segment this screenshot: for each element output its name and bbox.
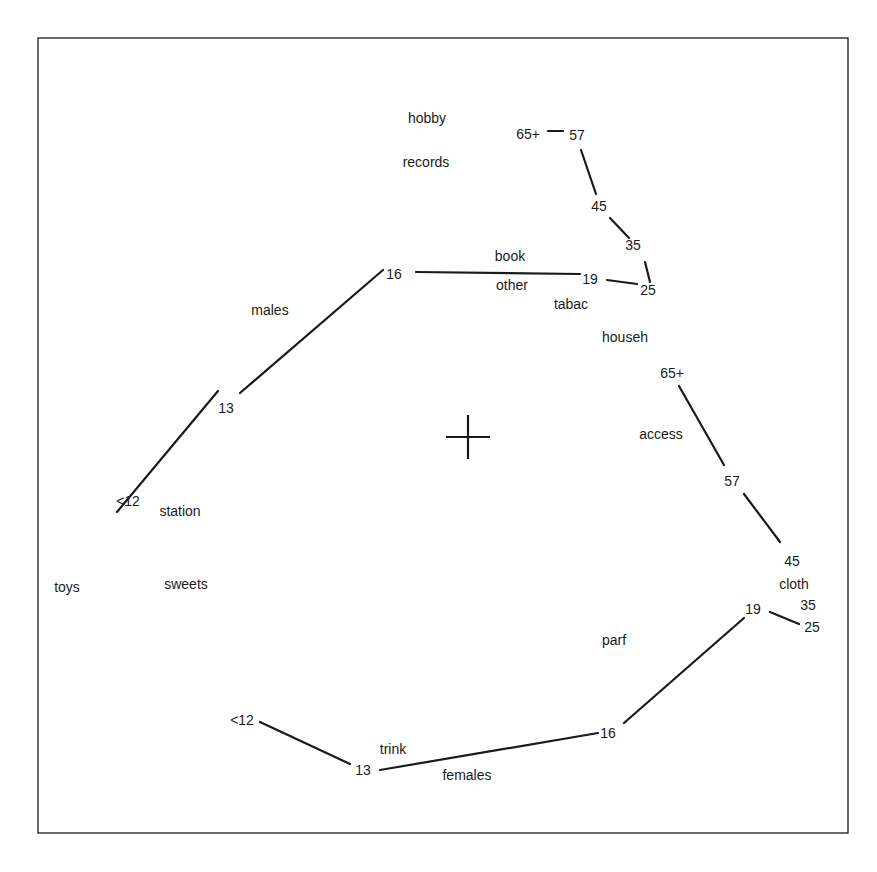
series-lines (117, 131, 799, 770)
category-label: hobby (408, 110, 446, 126)
age-point-label: 65+ (660, 365, 684, 381)
age-point-label: 19 (745, 601, 761, 617)
age-point-label: <12 (230, 712, 254, 728)
age-point-label: 45 (591, 198, 607, 214)
series-segment-males (610, 218, 629, 238)
age-point-label: 16 (600, 725, 616, 741)
age-point-label: 57 (724, 473, 740, 489)
category-label: males (251, 302, 288, 318)
category-label: book (495, 248, 526, 264)
category-label: tabac (554, 296, 588, 312)
series-segment-males (240, 270, 383, 393)
age-point-label: 65+ (516, 126, 540, 142)
series-segment-males (581, 150, 596, 194)
age-point-label: 13 (218, 400, 234, 416)
series-segment-females (260, 722, 350, 764)
age-point-label: 25 (804, 619, 820, 635)
category-label: station (159, 503, 200, 519)
age-point-label: 25 (640, 282, 656, 298)
series-segment-females (744, 494, 780, 542)
category-label: trink (380, 741, 407, 757)
category-label: househ (602, 329, 648, 345)
category-label: access (639, 426, 683, 442)
category-label: toys (54, 579, 80, 595)
age-point-label: 35 (625, 237, 641, 253)
age-point-label: 19 (582, 271, 598, 287)
point-labels: <121316192535455765+<121316192535455765+… (54, 110, 820, 783)
series-segment-males (645, 262, 650, 282)
category-label: records (403, 154, 450, 170)
category-label: females (442, 767, 491, 783)
age-point-label: 35 (800, 597, 816, 613)
category-label: other (496, 277, 528, 293)
age-point-label: 13 (355, 762, 371, 778)
category-label: cloth (779, 576, 809, 592)
correspondence-plot: <121316192535455765+<121316192535455765+… (0, 0, 877, 872)
category-label: sweets (164, 576, 208, 592)
series-segment-females (770, 612, 799, 624)
category-label: parf (602, 632, 626, 648)
series-segment-females (679, 386, 724, 465)
age-point-label: 16 (386, 266, 402, 282)
age-point-label: 57 (569, 127, 585, 143)
series-segment-females (380, 733, 598, 770)
series-segment-males (416, 272, 580, 274)
age-point-label: 45 (784, 553, 800, 569)
origin-crosshair (446, 415, 490, 459)
series-segment-females (624, 618, 744, 723)
age-point-label: <12 (116, 493, 140, 509)
series-segment-males (607, 280, 637, 284)
